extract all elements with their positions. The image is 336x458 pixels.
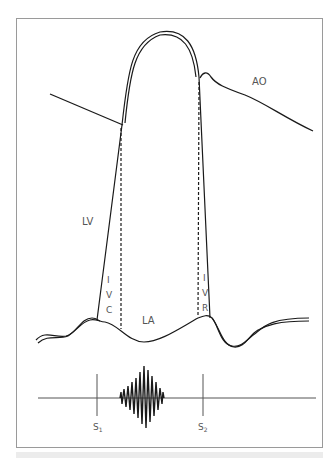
la-pressure-curve <box>36 316 309 347</box>
label-s2: S2 <box>198 422 208 433</box>
lv-pressure-curve-inner <box>125 35 196 123</box>
label-ivr-r: R <box>202 303 208 313</box>
label-la: LA <box>142 315 155 326</box>
cardiac-cycle-diagram: AO LV LA I V C I V R S1 S2 <box>0 0 336 458</box>
ivr-dashed-line <box>198 82 199 316</box>
label-ivc-i: I <box>107 275 110 285</box>
label-ivc-v: V <box>106 290 113 300</box>
label-ivr-i: I <box>203 273 206 283</box>
label-lv: LV <box>82 216 93 227</box>
label-ivr-v: V <box>202 288 209 298</box>
label-ao: AO <box>252 76 267 87</box>
murmur-waveform <box>120 366 164 428</box>
label-ivc-c: C <box>106 305 112 315</box>
aortic-pressure-curve-left <box>50 94 123 125</box>
label-s1: S1 <box>93 422 103 433</box>
lv-pressure-curve-outer <box>97 31 210 320</box>
